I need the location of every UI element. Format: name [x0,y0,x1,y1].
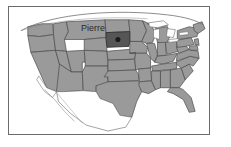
page-title: South Dakota [6,0,126,3]
state-indiana [158,42,167,56]
capital-dot-pierre[interactable] [115,37,120,42]
state-maryland [189,45,198,50]
state-colorado [84,50,108,66]
state-oregon [28,35,56,53]
map-page: South Dakota [0,0,231,147]
map-frame[interactable] [8,6,210,135]
state-alabama [160,70,170,88]
united-states-map-svg[interactable] [9,7,209,134]
state-kansas [108,59,136,71]
state-oklahoma [104,70,139,82]
capital-label-pierre: Pierre [81,23,105,33]
state-arkansas [139,68,152,82]
lake-ontario [179,32,188,36]
state-north-dakota [105,20,130,33]
lake-michigan [154,29,160,40]
state-wyoming [84,38,107,52]
state-new-jersey [194,39,199,46]
